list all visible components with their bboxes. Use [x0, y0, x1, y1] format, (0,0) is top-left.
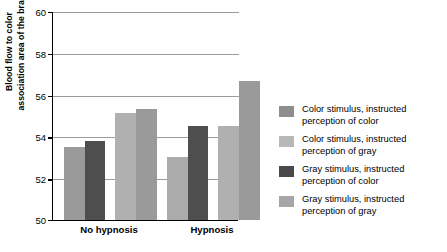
bar-group1-series2 — [188, 126, 208, 220]
plot-area: 60 58 56 54 52 50 — [52, 12, 238, 221]
legend-label-line2: perception of gray — [302, 146, 447, 158]
legend-swatch-color-stimulus-perception-gray — [279, 136, 294, 147]
legend-label-line2: perception of gray — [302, 206, 447, 218]
y-axis-title-line1: Blood flow to color — [4, 12, 14, 91]
gridline-56 — [53, 96, 239, 97]
y-tick-label-58: 58 — [35, 50, 46, 60]
legend-item-gray-stimulus-perception-gray: Gray stimulus, instructed perception of … — [279, 194, 447, 220]
legend-label-gray-stimulus-perception-gray: Gray stimulus, instructed perception of … — [302, 194, 447, 217]
legend-swatch-color-stimulus-perception-color — [279, 106, 294, 117]
bar-chart-figure: Blood flow to color association area of … — [0, 0, 447, 252]
y-tick-52 — [48, 179, 53, 180]
legend-label-line1: Color stimulus, instructed — [302, 104, 447, 116]
bar-group1-series1 — [218, 126, 239, 220]
legend-item-gray-stimulus-perception-color: Gray stimulus, instructed perception of … — [279, 164, 447, 190]
legend-label-line2: perception of color — [302, 116, 447, 128]
legend-item-color-stimulus-perception-color: Color stimulus, instructed perception of… — [279, 104, 447, 130]
x-axis-label-hypnosis: Hypnosis — [190, 224, 233, 235]
bar-group0-series3 — [136, 109, 157, 220]
bar-group1-series3 — [239, 81, 260, 220]
y-axis-title: Blood flow to color association area of … — [4, 0, 27, 153]
y-tick-54 — [48, 137, 53, 138]
y-tick-56 — [48, 96, 53, 97]
legend-label-line1: Gray stimulus, instructed — [302, 194, 447, 206]
y-axis-title-line2: association area of the brain — [15, 0, 27, 153]
chart-legend: Color stimulus, instructed perception of… — [279, 104, 447, 224]
gridline-60 — [53, 12, 239, 13]
y-tick-58 — [48, 54, 53, 55]
y-tick-label-60: 60 — [35, 8, 46, 18]
y-tick-label-56: 56 — [35, 92, 46, 102]
bar-group0-series0 — [64, 147, 85, 220]
y-tick-label-52: 52 — [35, 175, 46, 185]
bar-group0-series2 — [85, 141, 105, 220]
x-axis-label-no-hypnosis: No hypnosis — [80, 224, 138, 235]
legend-swatch-gray-stimulus-perception-color — [279, 166, 294, 177]
legend-label-line2: perception of color — [302, 176, 447, 188]
legend-item-color-stimulus-perception-gray: Color stimulus, instructed perception of… — [279, 134, 447, 160]
legend-label-line1: Gray stimulus, instructed — [302, 164, 447, 176]
legend-label-line1: Color stimulus, instructed — [302, 134, 447, 146]
bar-group1-series0 — [167, 157, 188, 220]
legend-swatch-gray-stimulus-perception-gray — [279, 196, 294, 207]
y-tick-label-54: 54 — [35, 134, 46, 144]
y-tick-label-50: 50 — [35, 216, 46, 226]
legend-label-gray-stimulus-perception-color: Gray stimulus, instructed perception of … — [302, 164, 447, 187]
bar-group0-series1 — [115, 113, 136, 220]
y-tick-50 — [48, 220, 53, 221]
y-tick-60 — [48, 12, 53, 13]
legend-label-color-stimulus-perception-color: Color stimulus, instructed perception of… — [302, 104, 447, 127]
legend-label-color-stimulus-perception-gray: Color stimulus, instructed perception of… — [302, 134, 447, 157]
gridline-58 — [53, 54, 239, 55]
